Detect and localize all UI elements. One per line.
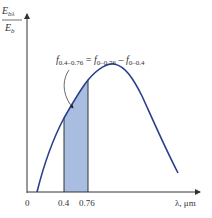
tick-label-0: 0 xyxy=(25,198,30,208)
y-axis-label-denominator: Eb xyxy=(4,22,15,35)
y-axis-label-numerator: Ebλ xyxy=(1,5,15,18)
x-axis-label: λ, μm xyxy=(175,198,196,208)
annotation-arrow xyxy=(64,70,73,108)
tick-label-0-4: 0.4 xyxy=(58,198,70,208)
emissive-power-curve xyxy=(37,64,178,192)
tick-label-0-76: 0.76 xyxy=(79,198,95,208)
blackbody-fraction-diagram: Ebλ Eb f0.4–0.76 = f0–0.76 – f0–0.4 0 0.… xyxy=(0,0,212,218)
fraction-formula: f0.4–0.76 = f0–0.76 – f0–0.4 xyxy=(56,54,145,67)
